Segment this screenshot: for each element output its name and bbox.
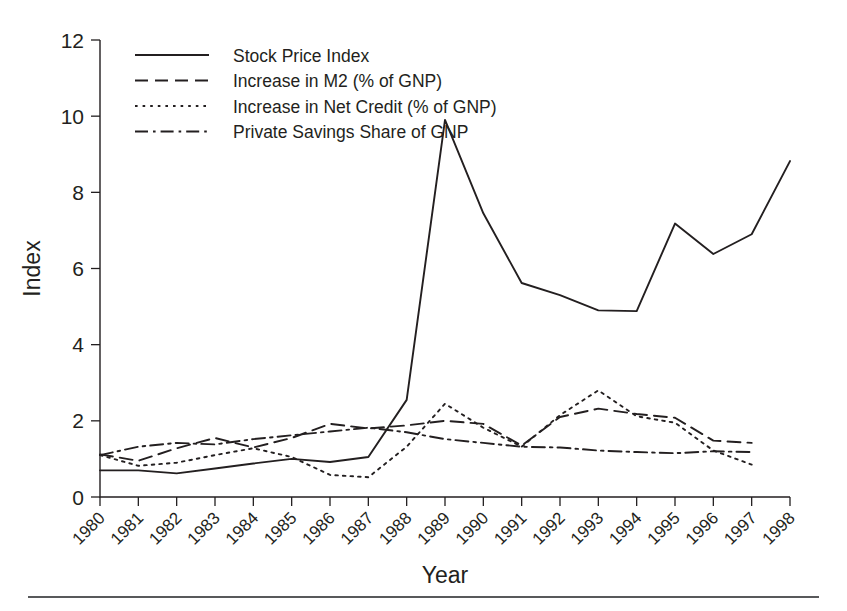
legend-label: Private Savings Share of GNP (233, 122, 468, 142)
x-tick-label: 1990 (452, 508, 492, 548)
y-tick-label: 2 (72, 409, 84, 432)
x-tick-label: 1985 (260, 508, 300, 548)
y-tick-label: 4 (72, 333, 84, 356)
x-tick-label: 1998 (759, 508, 799, 548)
y-tick-label: 8 (72, 181, 84, 204)
footer-divider (28, 596, 819, 598)
x-tick-label: 1994 (605, 508, 645, 548)
x-tick-label: 1988 (375, 508, 415, 548)
x-tick-label: 1981 (107, 508, 147, 548)
x-tick-label: 1986 (299, 508, 339, 548)
chart-canvas: 024681012Index19801981198219831984198519… (0, 0, 847, 611)
y-tick-label: 6 (72, 257, 84, 280)
y-axis-title: Index (19, 240, 45, 297)
y-tick-label: 0 (72, 486, 84, 509)
x-axis-title: Year (422, 562, 469, 588)
series-line-dotted (100, 390, 752, 477)
x-tick-label: 1996 (682, 508, 722, 548)
x-tick-label: 1992 (529, 508, 569, 548)
x-tick-label: 1984 (222, 508, 262, 548)
line-chart-figure: 024681012Index19801981198219831984198519… (0, 0, 847, 611)
legend-label: Increase in M2 (% of GNP) (233, 71, 442, 91)
x-tick-label: 1989 (414, 508, 454, 548)
x-tick-label: 1982 (145, 508, 185, 548)
x-tick-label: 1995 (644, 508, 684, 548)
y-tick-label: 10 (61, 105, 84, 128)
x-tick-label: 1983 (184, 508, 224, 548)
series-line-solid (100, 120, 790, 473)
y-tick-label: 12 (61, 29, 84, 52)
x-tick-label: 1993 (567, 508, 607, 548)
legend-label: Stock Price Index (233, 46, 369, 66)
series-line-dashdot (100, 428, 752, 455)
x-tick-label: 1991 (490, 508, 530, 548)
x-tick-label: 1987 (337, 508, 377, 548)
x-tick-label: 1997 (720, 508, 760, 548)
x-tick-label: 1980 (69, 508, 109, 548)
legend-label: Increase in Net Credit (% of GNP) (233, 97, 497, 117)
